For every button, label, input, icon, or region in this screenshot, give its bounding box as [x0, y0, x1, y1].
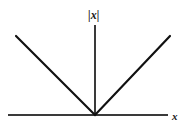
x-axis-label: x [172, 111, 178, 122]
absolute-value-curve [16, 36, 170, 115]
y-axis-label: |x| [88, 9, 99, 21]
absolute-value-graph-figure: |x| x [0, 0, 187, 127]
